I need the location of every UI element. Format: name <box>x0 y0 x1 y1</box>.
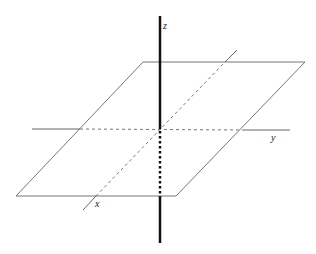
coordinate-diagram: z y x <box>0 0 316 254</box>
y-axis-label: y <box>270 132 276 143</box>
y-axis-hidden-segment <box>80 129 242 130</box>
z-axis-label: z <box>162 20 167 31</box>
x-axis-label: x <box>94 198 100 209</box>
diagram-canvas: z y x <box>0 0 316 254</box>
x-axis-upper-segment <box>225 50 237 62</box>
